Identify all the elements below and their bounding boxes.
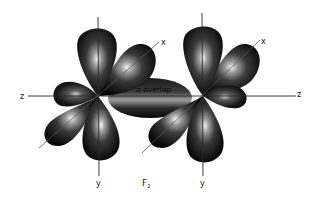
right-z-axis-label: z	[297, 90, 301, 99]
left-x-axis-label: x	[161, 38, 166, 47]
sigma-overlap-label: σ overlap	[136, 85, 172, 94]
left-y-axis-label: y	[96, 179, 101, 188]
right-x-axis-label: x	[261, 37, 266, 46]
molecule-label: F2	[142, 178, 150, 189]
right-y-axis-label: y	[200, 179, 205, 188]
f2-orbital-diagram: z z x x y y σ overlap F2	[0, 0, 323, 203]
left-z-axis-label: z	[20, 92, 24, 101]
molecule-subscript: 2	[147, 183, 150, 189]
